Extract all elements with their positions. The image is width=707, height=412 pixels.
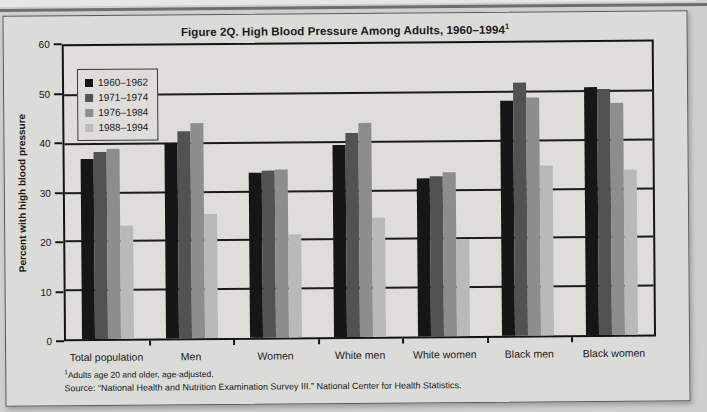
y-tick-label-40: 40 [39,138,50,149]
bar-1976–1984-Men [190,123,205,338]
bar-1971–1974-White women [430,176,444,336]
x-category-label-3: Women [233,347,318,362]
legend-swatch-icon [85,78,93,86]
bar-group-5 [400,43,486,337]
x-tick-5 [487,338,489,343]
bar-group-2 [148,45,234,339]
bar-1976–1984-Black women [610,102,625,335]
bar-1988–1994-White men [372,218,386,337]
bar-1988–1994-Total population [120,226,134,339]
y-tick-label-60: 60 [39,39,50,50]
legend-item-1976–1984: 1976–1984 [85,105,148,120]
bar-group-4 [316,44,402,338]
bar-1976–1984-Women [275,169,289,337]
x-category-label-1: Total population [64,349,149,364]
x-tick-6 [571,337,573,342]
bar-1988–1994-Women [288,235,302,338]
bar-1976–1984-White women [443,173,457,337]
y-tick-label-10: 10 [40,286,51,297]
y-tick-10 [56,291,64,293]
y-tick-label-50: 50 [39,88,50,99]
x-category-label-4: White men [318,347,403,362]
legend-item-1960–1962: 1960–1962 [85,75,148,90]
bar-1976–1984-Black men [526,98,541,336]
y-tick-60 [54,43,62,45]
y-tick-label-20: 20 [40,237,51,248]
figure-title: Figure 2Q. High Blood Pressure Among Adu… [4,20,687,39]
figure-title-superscript: 1 [505,22,509,31]
legend-item-1988–1994: 1988–1994 [85,120,148,135]
bar-1960–1962-White women [417,178,431,336]
x-tick-1 [149,341,151,346]
footnote-text: Adults age 20 and older, age-adjusted. [68,369,214,380]
bar-group-3 [232,44,318,338]
legend: 1960–19621971–19741976–19841988–1994 [77,68,159,141]
x-category-label-7: Black women [572,345,657,360]
y-tick-50 [54,93,62,95]
legend-label: 1971–1974 [98,92,148,103]
bar-1988–1994-White women [456,239,470,336]
legend-label: 1976–1984 [98,107,148,118]
y-tick-label-0: 0 [46,336,52,347]
legend-swatch-icon [85,123,93,131]
legend-swatch-icon [85,93,93,101]
y-axis: 0102030405060 [24,44,64,341]
y-tick-40 [54,142,62,144]
legend-label: 1988–1994 [98,122,148,133]
figure-box: Figure 2Q. High Blood Pressure Among Adu… [2,10,690,406]
plot-area: 1960–19621971–19741976–19841988–1994 [62,40,656,342]
footnote: 1Adults age 20 and older, age-adjusted. [64,367,213,380]
y-tick-30 [55,192,63,194]
bar-1971–1974-Women [262,170,276,338]
figure-title-text: Figure 2Q. High Blood Pressure Among Adu… [181,24,505,39]
x-category-label-5: White women [402,346,487,361]
y-tick-20 [55,241,63,243]
bar-1988–1994-Black men [540,165,554,336]
bar-1988–1994-Men [204,214,218,338]
bar-1976–1984-Total population [107,148,121,339]
legend-label: 1960–1962 [98,77,148,88]
y-tick-label-30: 30 [40,187,51,198]
bar-group-7 [568,42,654,336]
bar-group-6 [484,42,570,336]
legend-swatch-icon [85,108,93,116]
x-category-label-2: Men [149,348,234,363]
bar-1988–1994-Black women [624,170,638,335]
x-tick-3 [318,339,320,344]
source-line: Source: “National Health and Nutrition E… [64,380,461,393]
x-tick-2 [233,340,235,345]
x-tick-4 [402,339,404,344]
bar-1976–1984-White men [358,122,373,336]
legend-item-1971–1974: 1971–1974 [85,90,148,105]
y-tick-0 [56,340,64,342]
bar-1960–1962-Women [249,173,263,338]
x-category-label-6: Black men [487,345,572,360]
